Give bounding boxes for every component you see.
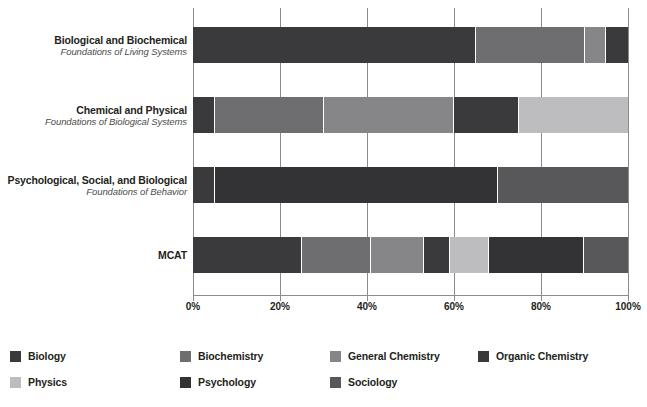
bar-segment-biochemistry [215,97,324,133]
category-title: Psychological, Social, and Biological [8,174,187,186]
bar-segment-psychology [215,167,498,203]
legend-label: Biochemistry [198,350,263,362]
legend-item-biochemistry[interactable]: Biochemistry [180,350,263,362]
category-label-mcat: MCAT [0,237,193,273]
bar-row [193,237,628,273]
legend-swatch-icon [180,377,191,388]
category-label-chemical-and-physical: Chemical and Physical Foundations of Bio… [0,97,193,133]
legend-swatch-icon [180,351,191,362]
category-title: MCAT [158,249,187,261]
legend-swatch-icon [330,377,341,388]
bar-segment-biology [193,237,302,273]
x-tick-label: 20% [270,301,290,312]
legend-swatch-icon [330,351,341,362]
bar-segment-general-chemistry [371,237,423,273]
bar-segment-biology [193,27,476,63]
bar-segment-general-chemistry [324,97,455,133]
bar-segment-sociology [498,167,629,203]
category-title: Biological and Biochemical [54,34,187,46]
bar-row [193,27,628,63]
legend-label: Biology [28,350,66,362]
bar-segment-biochemistry [476,27,585,63]
chart-legend: BiologyBiochemistryGeneral ChemistryOrga… [0,345,647,403]
bar-segment-biology [193,167,215,203]
legend-item-sociology[interactable]: Sociology [330,376,397,388]
bar-segment-organic-chemistry [424,237,450,273]
legend-label: Physics [28,376,67,388]
plot-area [193,8,628,296]
legend-swatch-icon [10,377,21,388]
category-subtitle: Foundations of Biological Systems [45,116,187,127]
bar-segment-organic-chemistry [606,27,628,63]
bar-segment-general-chemistry [585,27,607,63]
x-tick-label: 100% [615,301,641,312]
category-label-psychological-social-and-biological: Psychological, Social, and Biological Fo… [0,167,193,203]
legend-swatch-icon [478,351,489,362]
bar-segment-organic-chemistry [454,97,519,133]
category-subtitle: Foundations of Behavior [8,186,187,197]
legend-label: Sociology [348,376,397,388]
category-title: Chemical and Physical [45,104,187,116]
legend-item-organic-chemistry[interactable]: Organic Chemistry [478,350,588,362]
bar-segment-sociology [584,237,628,273]
bar-row [193,167,628,203]
legend-label: Organic Chemistry [496,350,588,362]
legend-item-physics[interactable]: Physics [10,376,67,388]
category-subtitle: Foundations of Living Systems [54,46,187,57]
legend-label: Psychology [198,376,256,388]
bar-segment-physics [450,237,489,273]
x-tick-label: 60% [444,301,464,312]
stacked-bar-chart: Biological and Biochemical Foundations o… [0,0,647,407]
bar-segment-biochemistry [302,237,372,273]
legend-item-psychology[interactable]: Psychology [180,376,256,388]
x-tick-label: 40% [357,301,377,312]
legend-item-general-chemistry[interactable]: General Chemistry [330,350,440,362]
category-label-biological-and-biochemical: Biological and Biochemical Foundations o… [0,27,193,63]
bar-segment-physics [519,97,628,133]
legend-item-biology[interactable]: Biology [10,350,66,362]
gridline-100 [628,8,629,296]
x-tick-label: 0% [186,301,200,312]
bar-segment-biology [193,97,215,133]
x-axis-line [193,295,628,296]
bar-segment-psychology [489,237,585,273]
bar-row [193,97,628,133]
x-tick-label: 80% [531,301,551,312]
legend-label: General Chemistry [348,350,440,362]
legend-swatch-icon [10,351,21,362]
